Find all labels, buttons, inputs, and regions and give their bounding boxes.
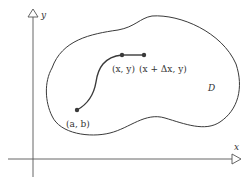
y-axis-arrow-icon: [28, 9, 38, 17]
point-x-plus-dx-y-label: (x + Δx, y): [139, 64, 187, 74]
point-a-b: [75, 108, 79, 112]
y-axis-label: y: [40, 10, 47, 20]
point-x-y-label: (x, y): [112, 64, 135, 74]
region-d-boundary: [46, 16, 239, 135]
point-a-b-label: (a, b): [66, 119, 90, 129]
point-x-y: [120, 53, 124, 57]
diagram-canvas: y x D (a, b) (x, y) (x + Δx, y): [0, 0, 252, 182]
x-axis-arrow-icon: [232, 154, 241, 164]
region-d-label: D: [207, 83, 215, 93]
point-x-plus-dx-y: [142, 53, 146, 57]
x-axis-label: x: [234, 142, 239, 152]
